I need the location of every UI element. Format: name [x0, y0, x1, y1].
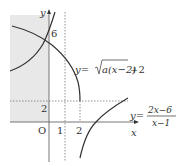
rational-curve-label: y= 2x−6 x−1 — [129, 105, 176, 128]
x-axis-label: x — [131, 127, 137, 138]
svg-text:y=: y= — [129, 110, 144, 121]
hyperbola-right-branch — [80, 98, 128, 158]
function-graph: y x O 1 2 2 6 y= a(x−2) +2 y= 2x−6 x−1 — [0, 0, 185, 166]
radical-curve-label: y= a(x−2) +2 — [74, 60, 145, 75]
svg-text:2x−6: 2x−6 — [147, 105, 172, 115]
origin-label: O — [38, 125, 46, 136]
tick-x-2: 2 — [76, 125, 82, 136]
svg-text:y=: y= — [74, 64, 89, 75]
svg-text:+2: +2 — [130, 64, 145, 75]
tick-x-1: 1 — [57, 125, 63, 136]
svg-text:x−1: x−1 — [152, 118, 170, 128]
tick-y-6: 6 — [51, 28, 57, 39]
y-axis-label: y — [39, 7, 46, 18]
tick-y-2: 2 — [41, 103, 47, 114]
y-axis-arrow-icon — [47, 9, 51, 14]
